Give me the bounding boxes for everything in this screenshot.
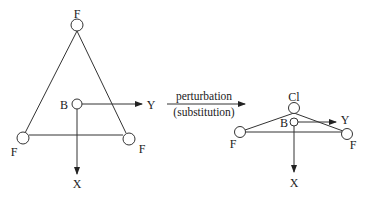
atom-center-circle <box>290 118 298 126</box>
product-molecule: Cl F F B Y X <box>230 90 357 190</box>
bond-top-right <box>77 31 126 133</box>
y-axis-label: Y <box>147 98 156 112</box>
atom-right-circle <box>123 133 135 145</box>
atom-right-label: F <box>350 138 357 152</box>
atom-top-label: F <box>74 7 81 21</box>
atom-top-circle <box>289 103 300 114</box>
bond-top-left <box>25 31 77 133</box>
atom-left-label: F <box>230 137 237 151</box>
atom-center-circle <box>72 99 82 109</box>
atom-left-circle <box>17 132 29 144</box>
y-axis-label: Y <box>341 113 350 127</box>
atom-center-label: B <box>60 98 68 112</box>
x-axis-label: X <box>73 177 82 191</box>
reaction-arrow: perturbation (substitution) <box>167 90 245 119</box>
atom-left-circle <box>235 127 246 138</box>
arrow-label-below: (substitution) <box>173 106 235 119</box>
x-axis-label: X <box>290 176 299 190</box>
reactant-molecule: F F F B Y X <box>11 7 156 191</box>
atom-top-label: Cl <box>288 90 300 104</box>
arrow-label-above: perturbation <box>176 90 232 103</box>
atom-center-label: B <box>280 116 288 130</box>
diagram: F F F B Y X perturbation (substitution) … <box>0 0 365 198</box>
atom-left-label: F <box>11 145 18 159</box>
atom-right-label: F <box>139 142 146 156</box>
